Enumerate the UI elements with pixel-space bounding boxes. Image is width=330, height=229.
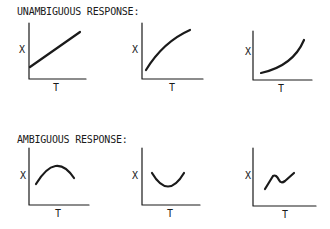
x-axis-label: T [282, 209, 288, 220]
panel-zigzag [253, 148, 316, 206]
axes [253, 148, 316, 206]
x-axis-label: T [169, 82, 175, 93]
panel-concave-increasing [142, 23, 203, 79]
axes [29, 23, 86, 79]
x-axis-label: T [55, 208, 61, 219]
y-axis-label: X [132, 44, 138, 55]
y-axis-label: X [132, 170, 138, 181]
curve-zigzag [265, 173, 294, 189]
curve-u-shape [152, 173, 184, 187]
y-axis-label: X [19, 44, 25, 55]
y-axis-label: X [245, 170, 251, 181]
panel-arch [29, 148, 89, 205]
axes [29, 148, 89, 205]
y-axis-label: X [20, 170, 26, 181]
x-axis-label: T [53, 82, 59, 93]
curve-linear [30, 32, 80, 67]
curve-concave [146, 30, 190, 70]
x-axis-label: T [167, 208, 173, 219]
response-curves-diagram [0, 0, 330, 229]
panel-u-shape [142, 148, 200, 205]
panel-linear-increasing [29, 23, 86, 79]
axes [142, 148, 200, 205]
curve-convex [261, 40, 304, 73]
panel-convex-increasing [253, 31, 312, 80]
x-axis-label: T [278, 83, 284, 94]
axes [142, 23, 203, 79]
y-axis-label: X [245, 46, 251, 57]
curve-arch [36, 166, 74, 184]
